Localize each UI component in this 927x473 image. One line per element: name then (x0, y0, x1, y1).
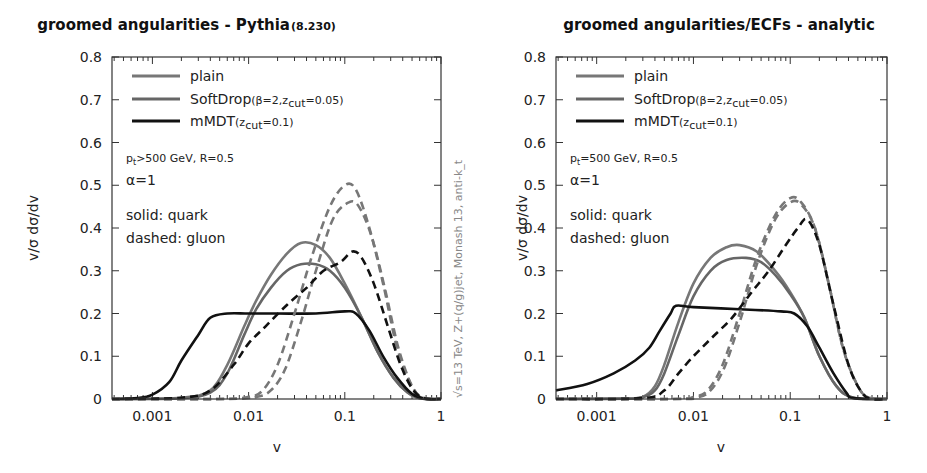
y-tick-label: 0.2 (80, 306, 102, 322)
y-tick-label: 0.2 (524, 306, 546, 322)
y-tick-label: 0.4 (524, 220, 546, 236)
y-tick-label: 0.6 (524, 135, 546, 151)
y-tick-label: 0 (537, 391, 546, 407)
legend-label-mmdt: mMDT(zcut=0.1) (634, 113, 738, 132)
right-dashed-note: dashed: gluon (570, 230, 669, 246)
right-panel: groomed angularities/ECFs - analytic v/σ… (514, 16, 891, 455)
left-chart-title-suffix: (8.230) (291, 20, 336, 33)
y-tick-label: 0.3 (524, 263, 546, 279)
left-y-axis-label: v/σ dσ/dv (25, 195, 41, 261)
left-solid-note: solid: quark (126, 207, 209, 223)
y-tick-label: 0.1 (524, 348, 546, 364)
left-legend: plain SoftDrop(β=2,zcut=0.05) mMDT(zcut=… (132, 68, 343, 132)
right-kinematics-note: pt=500 GeV, R=0.5 (570, 152, 678, 167)
y-tick-label: 0.5 (80, 177, 102, 193)
left-x-axis-label: v (273, 439, 281, 455)
y-tick-label: 0 (93, 391, 102, 407)
x-tick-label: 1 (883, 408, 892, 424)
y-tick-label: 0.6 (80, 135, 102, 151)
legend-label-mmdt: mMDT(zcut=0.1) (190, 113, 294, 132)
series-line: SoftDrop quark (112, 264, 441, 399)
legend-label-plain: plain (634, 68, 668, 84)
y-tick-label: 0.8 (80, 49, 102, 65)
x-tick-label: 1 (437, 408, 446, 424)
x-tick-label: 0.1 (779, 408, 801, 424)
y-tick-label: 0.1 (80, 348, 102, 364)
x-tick-label: 0.001 (132, 408, 172, 424)
chart-figure: groomed angularities - Pythia (8.230) v/… (0, 0, 927, 473)
right-chart-title: groomed angularities/ECFs - analytic (563, 16, 875, 34)
x-tick-label: 0.01 (233, 408, 264, 424)
right-alpha-note: α=1 (570, 172, 600, 188)
y-tick-label: 0.3 (80, 263, 102, 279)
y-tick-label: 0.7 (80, 92, 102, 108)
x-tick-label: 0.01 (678, 408, 709, 424)
left-alpha-note: α=1 (126, 172, 156, 188)
series-line: plain gluon (556, 197, 887, 399)
y-tick-label: 0.4 (80, 220, 102, 236)
right-curves: plain quarkSoftDrop quarkmMDT quarkplain… (556, 197, 887, 399)
left-dashed-note: dashed: gluon (126, 230, 225, 246)
left-plot-frame (112, 57, 441, 399)
y-tick-label: 0.5 (524, 177, 546, 193)
legend-label-softdrop: SoftDrop(β=2,zcut=0.05) (190, 91, 343, 110)
left-side-note: √s=13 TeV, Z+(q/g)jet, Monash 13, anti-k… (452, 159, 465, 398)
legend-label-softdrop: SoftDrop(β=2,zcut=0.05) (634, 91, 787, 110)
left-panel: groomed angularities - Pythia (8.230) v/… (25, 16, 465, 455)
legend-label-plain: plain (190, 68, 224, 84)
right-solid-note: solid: quark (570, 207, 653, 223)
x-tick-label: 0.1 (334, 408, 356, 424)
y-tick-label: 0.8 (524, 49, 546, 65)
series-line: mMDT quark (112, 311, 441, 399)
right-x-axis-label: v (717, 439, 725, 455)
left-chart-title: groomed angularities - Pythia (37, 16, 290, 34)
right-plot-frame (556, 57, 887, 399)
right-legend: plain SoftDrop(β=2,zcut=0.05) mMDT(zcut=… (576, 68, 787, 132)
left-kinematics-note: pt>500 GeV, R=0.5 (126, 152, 234, 167)
y-tick-label: 0.7 (524, 92, 546, 108)
x-tick-label: 0.001 (577, 408, 617, 424)
